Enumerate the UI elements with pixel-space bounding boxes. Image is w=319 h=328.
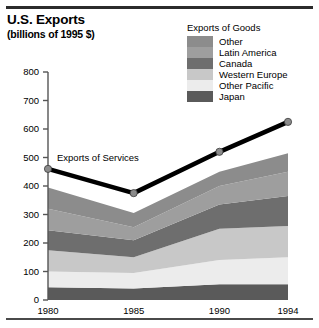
y-axis-tick-label: 0: [34, 294, 39, 305]
y-axis-tick-label: 400: [23, 180, 39, 191]
chart-svg: 0100200300400500600700800198019851990199…: [0, 0, 319, 328]
plot-area: 0100200300400500600700800198019851990199…: [0, 0, 319, 328]
chart-figure: U.S. Exports (billions of 1995 $) Export…: [0, 0, 319, 328]
services-data-point: [44, 165, 51, 172]
y-axis-tick-label: 100: [23, 266, 39, 277]
y-axis-tick-label: 800: [23, 66, 39, 77]
y-axis-tick-label: 300: [23, 209, 39, 220]
services-data-point: [284, 118, 291, 125]
y-axis-tick-label: 700: [23, 95, 39, 106]
x-axis-tick-label-1994: 1994: [277, 305, 298, 316]
x-axis-tick-label-1985: 1985: [123, 305, 144, 316]
y-axis-tick-label: 200: [23, 237, 39, 248]
y-axis-tick-label: 600: [23, 123, 39, 134]
services-annotation-label: Exports of Services: [57, 152, 139, 163]
services-data-point: [130, 190, 137, 197]
services-data-point: [216, 148, 223, 155]
y-axis-tick-label: 500: [23, 152, 39, 163]
x-axis-tick-label-1990: 1990: [209, 305, 230, 316]
x-axis-tick-label-1980: 1980: [37, 305, 58, 316]
